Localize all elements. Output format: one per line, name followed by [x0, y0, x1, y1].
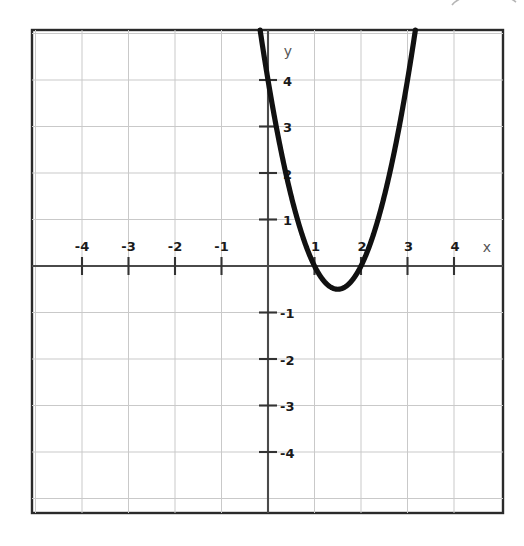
x-axis-label: x: [483, 239, 491, 255]
x-tick-label--1: -1: [214, 239, 228, 254]
y-tick-label-3: 3: [283, 120, 292, 135]
y-tick-label--2: -2: [280, 353, 294, 368]
y-tick-label--4: -4: [280, 446, 294, 461]
x-tick-label--2: -2: [168, 239, 182, 254]
x-tick-label-1: 1: [311, 239, 320, 254]
coordinate-plane-svg: -4 -3 -2 -1 1 2 3 4 4 3 2 1 -1 -2 -3 -4 …: [0, 0, 524, 546]
y-tick-label--1: -1: [280, 306, 294, 321]
x-tick-label--3: -3: [121, 239, 135, 254]
y-tick-label--3: -3: [280, 399, 294, 414]
y-tick-label-1: 1: [283, 213, 292, 228]
scan-artifact-arc: [452, 0, 516, 5]
y-axis-label: y: [284, 43, 292, 59]
graph-figure: -4 -3 -2 -1 1 2 3 4 4 3 2 1 -1 -2 -3 -4 …: [0, 0, 524, 546]
y-tick-label-4: 4: [283, 74, 292, 89]
x-tick-label-4: 4: [450, 239, 459, 254]
x-tick-label--4: -4: [75, 239, 89, 254]
x-tick-label-3: 3: [404, 239, 413, 254]
